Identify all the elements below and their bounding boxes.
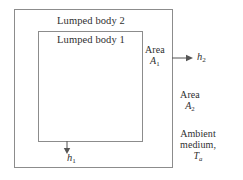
- h2-subscript: 2: [202, 56, 206, 64]
- h1-subscript: 1: [72, 157, 76, 165]
- lumped-body-1-box: [38, 31, 143, 142]
- lumped-body-1-label: Lumped body 1: [57, 34, 125, 45]
- area-1-subscript: 1: [156, 60, 160, 67]
- area-2-symbol-line: A2: [180, 101, 200, 112]
- ambient-temperature-subscript: a: [199, 154, 203, 161]
- h2-arrow-icon: [172, 53, 196, 63]
- ambient-temperature-line: Ta: [180, 151, 216, 162]
- area-2-label: Area A2: [180, 90, 200, 112]
- h1-label: h1: [67, 152, 76, 163]
- area-1-label: Area A1: [145, 45, 165, 67]
- figure-canvas: Lumped body 2 Lumped body 1 Area A1 Area…: [0, 0, 243, 180]
- h2-label: h2: [197, 51, 206, 62]
- area-1-symbol-line: A1: [145, 56, 165, 67]
- ambient-medium-label: Ambient medium, Ta: [180, 129, 216, 161]
- area-2-subscript: 2: [191, 105, 195, 112]
- lumped-body-2-label: Lumped body 2: [57, 15, 125, 26]
